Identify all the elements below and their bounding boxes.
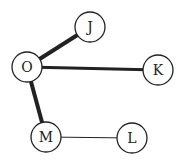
node-label: K <box>153 62 164 78</box>
node-label: M <box>39 129 53 145</box>
node-k: K <box>143 55 173 85</box>
edges-layer <box>27 27 158 138</box>
node-label: L <box>127 130 136 146</box>
nodes-layer: JOKML <box>12 12 173 153</box>
node-o: O <box>12 52 42 82</box>
node-m: M <box>31 122 61 152</box>
node-j: J <box>75 12 105 42</box>
graph-diagram: JOKML <box>0 0 182 162</box>
node-l: L <box>117 123 147 153</box>
edge-o-k <box>27 67 158 70</box>
node-label: O <box>21 59 32 75</box>
node-label: J <box>85 19 93 35</box>
